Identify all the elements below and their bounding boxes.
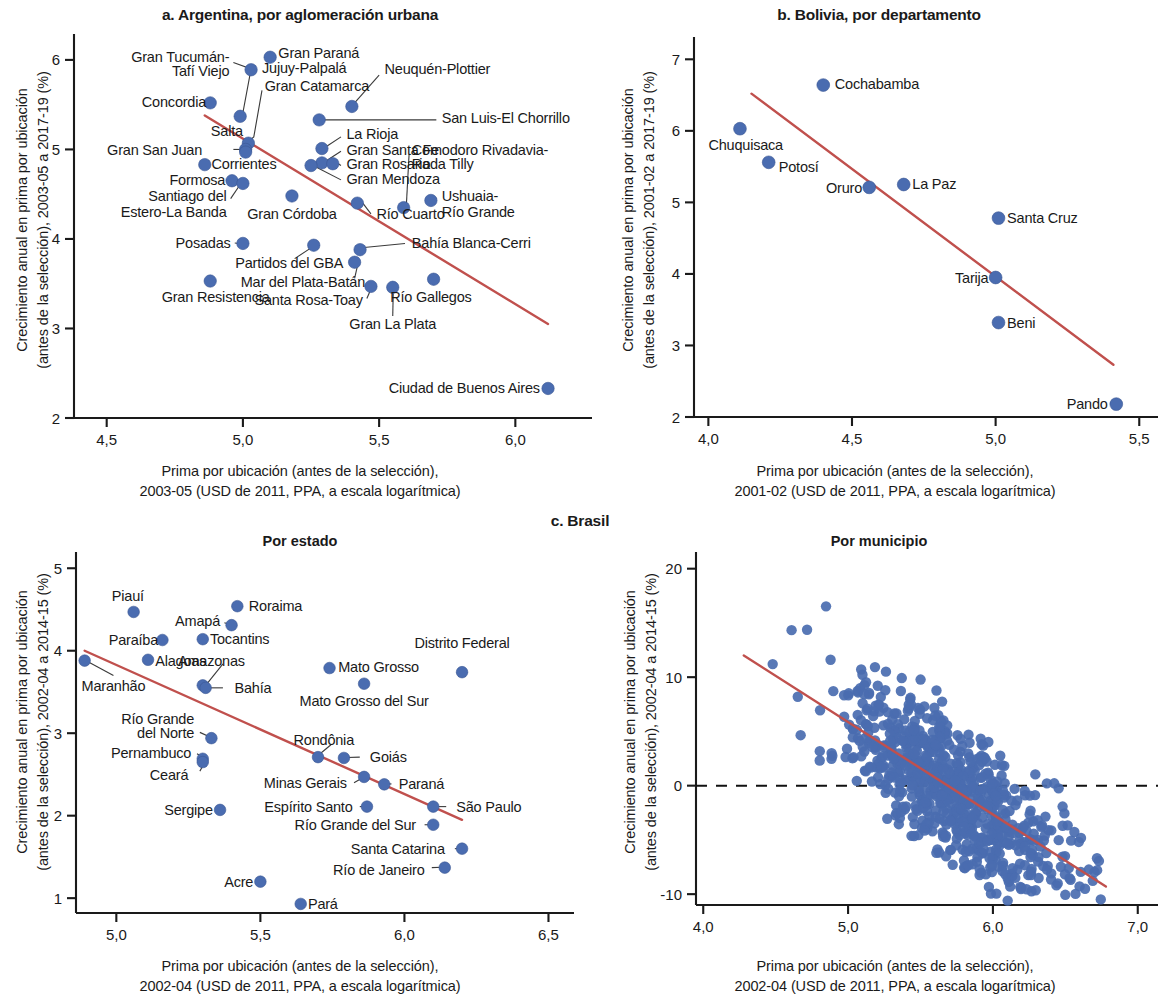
- panel-c1-plot: 123455,05,56,06,5PiauíRoraimaAmapáParaíb…: [0, 505, 600, 955]
- y-tick-label: 3: [54, 725, 62, 742]
- data-point: [878, 751, 888, 761]
- data-point: [237, 177, 249, 189]
- point-label: Corrientes: [212, 156, 277, 172]
- data-point: [952, 833, 962, 843]
- point-label: Gran Paraná: [278, 45, 360, 61]
- data-point: [868, 711, 878, 721]
- data-point: [286, 190, 298, 202]
- data-point: [1053, 783, 1063, 793]
- data-point: [456, 666, 468, 678]
- y-tick-label: 5: [672, 194, 680, 211]
- data-point: [815, 746, 825, 756]
- x-tick-label: 4,0: [693, 918, 714, 935]
- data-point: [881, 666, 891, 676]
- y-tick-label: 2: [54, 807, 62, 824]
- data-point: [817, 79, 830, 92]
- point-label: Partidos del GBA: [235, 255, 344, 271]
- data-point: [931, 685, 941, 695]
- data-point: [157, 634, 169, 646]
- point-label: Santiago del: [148, 188, 226, 204]
- figure-root: a. Argentina, por aglomeración urbana Cr…: [0, 0, 1158, 1000]
- point-label: Río de Janeiro: [333, 862, 425, 878]
- data-point: [1021, 884, 1031, 894]
- data-point: [316, 142, 328, 154]
- data-point: [313, 114, 325, 126]
- data-point: [963, 860, 973, 870]
- data-point: [964, 738, 974, 748]
- x-tick-label: 6,0: [394, 926, 415, 943]
- data-point: [427, 801, 439, 813]
- data-point: [882, 814, 892, 824]
- y-tick-label: 3: [672, 337, 680, 354]
- data-point: [1096, 894, 1106, 904]
- point-label: São Paulo: [456, 799, 521, 815]
- data-point: [226, 175, 238, 187]
- y-tick-label: 6: [672, 122, 680, 139]
- data-point: [941, 830, 951, 840]
- panel-c2-x-axis-line2: 2002-04 (USD de 2011, PPA, a escala loga…: [734, 978, 1055, 994]
- data-point: [932, 844, 942, 854]
- data-point: [934, 721, 944, 731]
- data-point: [852, 776, 862, 786]
- data-point: [1066, 835, 1076, 845]
- data-point: [351, 197, 363, 209]
- data-point: [908, 725, 918, 735]
- data-point: [234, 110, 246, 122]
- data-point: [896, 686, 906, 696]
- data-point: [931, 740, 941, 750]
- point-label: Minas Gerais: [264, 775, 347, 791]
- point-label: Río Gallegos: [390, 289, 471, 305]
- data-point: [863, 181, 876, 194]
- data-point: [1030, 769, 1040, 779]
- data-point: [889, 772, 899, 782]
- point-label: Sergipe: [164, 802, 213, 818]
- data-point: [795, 730, 805, 740]
- data-point: [967, 813, 977, 823]
- trendline: [744, 655, 1106, 886]
- x-tick-label: 5,0: [985, 430, 1006, 447]
- point-label: Gran Córdoba: [247, 206, 338, 222]
- data-point: [1057, 801, 1067, 811]
- x-tick-label: 5,0: [838, 918, 859, 935]
- point-label: Gran San Juan: [107, 142, 202, 158]
- data-point: [427, 273, 439, 285]
- data-point: [907, 780, 917, 790]
- data-point: [305, 159, 317, 171]
- panel-c2-plot: -10010204,05,06,07,0: [600, 505, 1158, 955]
- data-point: [204, 275, 216, 287]
- data-point: [1092, 853, 1102, 863]
- point-label: Chuquisaca: [708, 137, 784, 153]
- data-point: [915, 674, 925, 684]
- data-point: [1020, 841, 1030, 851]
- data-point: [897, 735, 907, 745]
- leader-line: [316, 167, 341, 180]
- data-point: [947, 860, 957, 870]
- point-label: Gran La Plata: [349, 316, 437, 332]
- point-label: Paraná: [399, 776, 446, 792]
- panel-argentina: a. Argentina, por aglomeración urbana Cr…: [0, 0, 600, 505]
- data-point: [989, 271, 1002, 284]
- point-label: Acre: [224, 874, 253, 890]
- data-point: [857, 670, 867, 680]
- data-point: [1009, 784, 1019, 794]
- panel-b-x-axis-line1: Prima por ubicación (antes de la selecci…: [757, 463, 1034, 479]
- data-point: [905, 693, 915, 703]
- data-point: [909, 819, 919, 829]
- data-point: [991, 791, 1001, 801]
- data-point: [848, 732, 858, 742]
- point-label: Potosí: [779, 159, 819, 175]
- point-label: La Paz: [912, 176, 956, 192]
- point-label: Tafí Viejo: [172, 63, 230, 79]
- point-label: Piauí: [112, 588, 144, 604]
- panel-bolivia: b. Bolivia, por departamento Crecimiento…: [600, 0, 1158, 505]
- data-point: [255, 876, 267, 888]
- point-label: Río Grande: [121, 711, 194, 727]
- data-point: [1057, 821, 1067, 831]
- panel-brasil-municipio: Por municipio Crecimiento anual en prima…: [600, 505, 1158, 1000]
- data-point: [439, 862, 451, 874]
- data-point: [786, 625, 796, 635]
- data-point: [909, 831, 919, 841]
- y-tick-label: 4: [672, 265, 680, 282]
- x-tick-label: 6,0: [505, 431, 526, 448]
- data-point: [956, 804, 966, 814]
